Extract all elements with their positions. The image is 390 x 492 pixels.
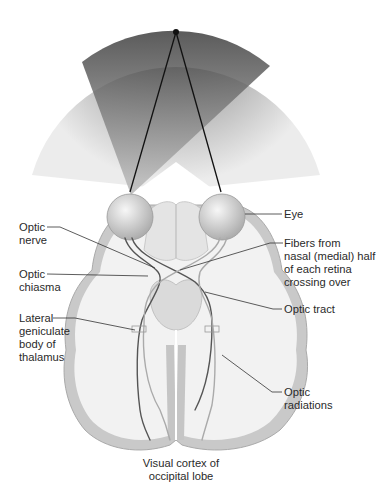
right-eye [199, 194, 245, 240]
fixation-point [173, 29, 179, 35]
label-eye: Eye [284, 208, 303, 221]
label-optic-radiations: Optic radiations [284, 386, 333, 412]
label-optic-tract: Optic tract [284, 303, 335, 316]
visual-field [32, 31, 320, 195]
label-lateral-geniculate: Lateral geniculate body of thalamus [19, 312, 70, 364]
label-optic-chiasma: Optic chiasma [19, 268, 61, 294]
left-eye [107, 194, 153, 240]
brain [64, 202, 308, 450]
label-optic-nerve: Optic nerve [19, 221, 47, 247]
label-fibers-crossing: Fibers from nasal (medial) half of each … [284, 237, 375, 289]
visual-pathway-diagram: Optic nerve Optic chiasma Lateral genicu… [0, 0, 390, 492]
label-visual-cortex: Visual cortex of occipital lobe [126, 457, 236, 483]
